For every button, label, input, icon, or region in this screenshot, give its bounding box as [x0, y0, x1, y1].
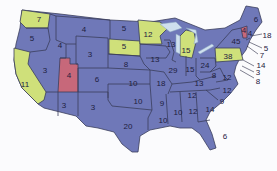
- us-state-map: 7 5 11 3 4 4 3 4 3 3 6 5 5 8 10 10 20 12…: [0, 0, 277, 171]
- label-ia: 13: [151, 55, 160, 64]
- label-wi: 13: [167, 40, 176, 49]
- label-ny: 45: [232, 37, 241, 46]
- label-ks: 10: [129, 79, 138, 88]
- label-fl: 6: [223, 132, 228, 141]
- label-mn: 12: [144, 30, 153, 39]
- label-tn: 12: [188, 91, 197, 100]
- label-mt: 4: [82, 25, 87, 34]
- label-ne: 8: [124, 60, 129, 69]
- label-nm: 3: [91, 103, 96, 112]
- label-va: 12: [223, 73, 232, 82]
- label-pa: 38: [224, 52, 233, 61]
- label-me: 6: [254, 15, 259, 24]
- label-ga: 14: [206, 105, 215, 114]
- label-sd: 5: [122, 42, 127, 51]
- label-al: 12: [189, 107, 198, 116]
- label-oh: 24: [201, 61, 210, 70]
- label-ar: 9: [160, 99, 165, 108]
- label-in: 15: [186, 65, 195, 74]
- label-ky: 13: [195, 79, 204, 88]
- label-nd: 5: [122, 24, 127, 33]
- label-id: 4: [58, 41, 63, 50]
- label-wa: 7: [37, 15, 42, 24]
- label-ma: 18: [263, 31, 272, 40]
- label-mi: 15: [182, 46, 191, 55]
- label-ri: 5: [264, 44, 269, 53]
- label-sc: 9: [220, 97, 225, 106]
- label-la: 10: [159, 116, 168, 125]
- label-mo: 18: [157, 79, 166, 88]
- label-nh: 4: [248, 29, 253, 38]
- label-ms: 10: [174, 108, 183, 117]
- label-ct: 7: [260, 51, 265, 60]
- label-nv: 3: [43, 66, 48, 75]
- label-il: 29: [169, 66, 178, 75]
- label-de: 3: [256, 68, 261, 77]
- lake-michigan: [176, 34, 180, 54]
- label-ok: 10: [134, 97, 143, 106]
- label-wv: 8: [212, 71, 217, 80]
- label-vt: 4: [242, 26, 247, 35]
- label-ca: 11: [21, 80, 30, 89]
- label-az: 3: [62, 101, 67, 110]
- label-or: 5: [30, 34, 35, 43]
- label-wy: 3: [88, 50, 93, 59]
- label-nc: 12: [223, 86, 232, 95]
- label-md: 8: [256, 77, 261, 86]
- map-canvas: 7 5 11 3 4 4 3 4 3 3 6 5 5 8 10 10 20 12…: [0, 0, 277, 171]
- label-ut: 4: [67, 71, 72, 80]
- label-tx: 20: [124, 122, 133, 131]
- label-co: 6: [95, 75, 100, 84]
